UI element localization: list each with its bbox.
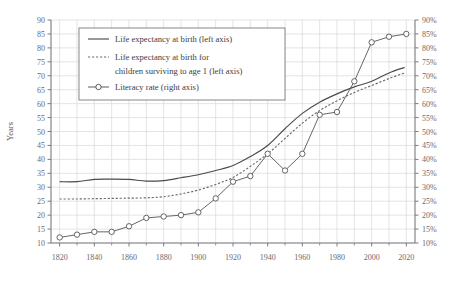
y-tick-label-right: 80% <box>422 44 437 53</box>
y-tick-label-left: 75 <box>37 58 45 67</box>
y-tick-label-right: 45% <box>422 141 437 150</box>
y-tick-label-left: 50 <box>37 128 45 137</box>
data-point-marker <box>126 224 131 229</box>
y-tick-label-left: 40 <box>37 155 45 164</box>
y-tick-label-left: 60 <box>37 100 45 109</box>
y-tick-label-right: 70% <box>422 72 437 81</box>
y-tick-label-left: 45 <box>37 141 45 150</box>
legend-label-0: Life expectancy at birth (left axis) <box>115 34 232 44</box>
legend-swatch-marker <box>96 84 101 89</box>
y-tick-label-left: 70 <box>37 72 45 81</box>
data-point-marker <box>386 34 391 39</box>
data-point-marker <box>300 151 305 156</box>
y-tick-label-right: 65% <box>422 86 437 95</box>
data-point-marker <box>178 212 183 217</box>
y-tick-label-left: 35 <box>37 169 45 178</box>
data-point-marker <box>74 232 79 237</box>
y-tick-label-left: 15 <box>37 225 45 234</box>
y-tick-label-right: 40% <box>422 155 437 164</box>
data-point-marker <box>334 109 339 114</box>
data-point-marker <box>213 196 218 201</box>
data-point-marker <box>230 179 235 184</box>
y-axis-title: Years <box>5 122 15 141</box>
y-tick-label-right: 55% <box>422 114 437 123</box>
x-tick-label: 1980 <box>329 253 345 262</box>
y-tick-label-right: 15% <box>422 225 437 234</box>
data-point-marker <box>144 215 149 220</box>
x-tick-label: 1940 <box>260 253 276 262</box>
data-point-marker <box>196 210 201 215</box>
legend-label-1: children surviving to age 1 (left axis) <box>115 66 243 76</box>
x-tick-label: 1920 <box>225 253 241 262</box>
y-tick-label-right: 60% <box>422 100 437 109</box>
y-tick-label-left: 30 <box>37 183 45 192</box>
y-tick-label-left: 80 <box>37 44 45 53</box>
x-tick-label: 1860 <box>121 253 137 262</box>
data-point-marker <box>282 168 287 173</box>
data-point-marker <box>369 40 374 45</box>
data-point-marker <box>265 151 270 156</box>
y-tick-label-right: 10% <box>422 239 437 248</box>
legend-label-2: Literacy rate (right axis) <box>115 82 199 92</box>
data-point-marker <box>92 229 97 234</box>
data-point-marker <box>161 214 166 219</box>
y-tick-label-left: 85 <box>37 30 45 39</box>
y-tick-label-left: 25 <box>37 197 45 206</box>
y-tick-label-right: 50% <box>422 128 437 137</box>
y-tick-label-left: 20 <box>37 211 45 220</box>
x-tick-label: 1820 <box>52 253 68 262</box>
x-tick-label: 1840 <box>86 253 102 262</box>
data-point-marker <box>248 173 253 178</box>
y-tick-label-left: 90 <box>37 16 45 25</box>
data-point-marker <box>317 112 322 117</box>
x-tick-label: 1880 <box>156 253 172 262</box>
line-chart: 101520253035404550556065707580859010%15%… <box>0 0 466 283</box>
x-tick-label: 2020 <box>398 253 414 262</box>
y-tick-label-right: 20% <box>422 211 437 220</box>
data-point-marker <box>109 229 114 234</box>
y-tick-label-left: 65 <box>37 86 45 95</box>
y-tick-label-right: 30% <box>422 183 437 192</box>
legend-label-1: Life expectancy at birth for <box>115 52 209 62</box>
x-tick-label: 1900 <box>190 253 206 262</box>
x-tick-label: 1960 <box>294 253 310 262</box>
chart-container: 101520253035404550556065707580859010%15%… <box>0 0 466 283</box>
x-tick-label: 2000 <box>364 253 380 262</box>
y-tick-label-right: 75% <box>422 58 437 67</box>
data-point-marker <box>404 31 409 36</box>
data-point-marker <box>57 235 62 240</box>
y-tick-label-left: 55 <box>37 114 45 123</box>
y-tick-label-right: 35% <box>422 169 437 178</box>
data-point-marker <box>352 79 357 84</box>
y-tick-label-right: 85% <box>422 30 437 39</box>
y-tick-label-right: 25% <box>422 197 437 206</box>
y-tick-label-right: 90% <box>422 16 437 25</box>
y-tick-label-left: 10 <box>37 239 45 248</box>
